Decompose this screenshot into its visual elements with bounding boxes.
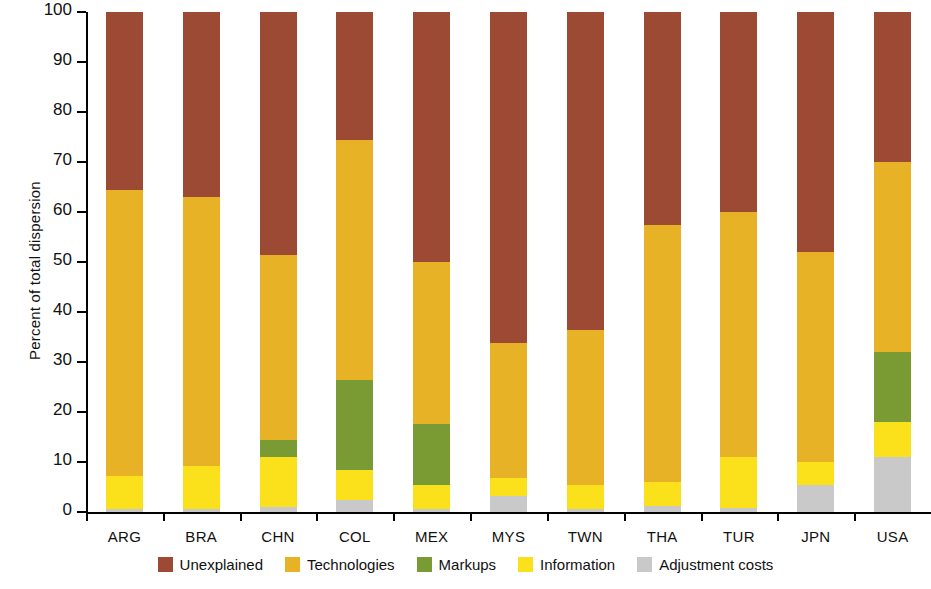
bar-segment-mex-adjustment-costs[interactable]	[413, 509, 450, 513]
x-tick	[547, 512, 549, 521]
bar-segment-mys-information[interactable]	[490, 478, 527, 496]
bar-segment-mys-unexplained[interactable]	[490, 12, 527, 343]
bar-mys[interactable]	[490, 12, 527, 512]
bar-segment-mex-unexplained[interactable]	[413, 12, 450, 262]
x-tick	[470, 512, 472, 521]
bar-segment-usa-unexplained[interactable]	[874, 12, 911, 162]
bar-twn[interactable]	[567, 12, 604, 512]
legend-item-markups[interactable]: Markups	[417, 556, 497, 573]
bar-segment-arg-technologies[interactable]	[106, 190, 143, 476]
plot-area: 0102030405060708090100 ARGBRACHNCOLMEXMY…	[86, 12, 931, 512]
legend-label: Adjustment costs	[659, 556, 773, 573]
x-tick-label-arg: ARG	[86, 528, 163, 545]
bar-segment-col-information[interactable]	[336, 470, 373, 500]
bar-segment-tur-adjustment-costs[interactable]	[720, 508, 757, 512]
bar-segment-usa-adjustment-costs[interactable]	[874, 457, 911, 512]
bar-segment-twn-adjustment-costs[interactable]	[567, 509, 604, 512]
y-tick-label: 80	[53, 100, 72, 120]
x-tick	[316, 512, 318, 521]
x-tick-label-usa: USA	[854, 528, 931, 545]
bar-segment-mys-adjustment-costs[interactable]	[490, 496, 527, 512]
legend-swatch-icon	[285, 557, 300, 572]
bar-chn[interactable]	[260, 12, 297, 512]
bar-segment-col-markups[interactable]	[336, 380, 373, 470]
bar-mex[interactable]	[413, 12, 450, 512]
chart-legend: UnexplainedTechnologiesMarkupsInformatio…	[0, 556, 931, 573]
x-tick	[163, 512, 165, 521]
bar-segment-bra-information[interactable]	[183, 466, 220, 509]
bar-jpn[interactable]	[797, 12, 834, 512]
legend-swatch-icon	[518, 557, 533, 572]
bar-segment-col-adjustment-costs[interactable]	[336, 500, 373, 513]
bar-segment-mex-markups[interactable]	[413, 424, 450, 485]
bar-segment-arg-unexplained[interactable]	[106, 12, 143, 190]
legend-swatch-icon	[417, 557, 432, 572]
bar-segment-tha-unexplained[interactable]	[644, 12, 681, 225]
bar-segment-twn-technologies[interactable]	[567, 330, 604, 485]
bar-segment-arg-information[interactable]	[106, 476, 143, 509]
y-tick-mark	[77, 411, 86, 413]
y-tick-label: 20	[53, 400, 72, 420]
bar-col[interactable]	[336, 12, 373, 512]
bar-segment-col-unexplained[interactable]	[336, 12, 373, 140]
bar-arg[interactable]	[106, 12, 143, 512]
legend-item-information[interactable]: Information	[518, 556, 615, 573]
bar-segment-tur-information[interactable]	[720, 457, 757, 509]
legend-item-technologies[interactable]: Technologies	[285, 556, 395, 573]
x-tick	[624, 512, 626, 521]
x-tick-label-twn: TWN	[547, 528, 624, 545]
bar-segment-tur-technologies[interactable]	[720, 212, 757, 457]
bar-segment-mys-technologies[interactable]	[490, 343, 527, 478]
bar-segment-jpn-technologies[interactable]	[797, 252, 834, 462]
y-tick-label: 40	[53, 300, 72, 320]
y-tick-label: 70	[53, 150, 72, 170]
bar-segment-twn-unexplained[interactable]	[567, 12, 604, 330]
bar-segment-tha-adjustment-costs[interactable]	[644, 506, 681, 512]
y-tick-mark	[77, 161, 86, 163]
bar-segment-chn-unexplained[interactable]	[260, 12, 297, 255]
bar-segment-bra-technologies[interactable]	[183, 197, 220, 466]
bar-segment-col-technologies[interactable]	[336, 140, 373, 380]
legend-label: Technologies	[307, 556, 395, 573]
bar-segment-tha-information[interactable]	[644, 482, 681, 506]
y-tick-label: 50	[53, 250, 72, 270]
bar-bra[interactable]	[183, 12, 220, 512]
bar-tha[interactable]	[644, 12, 681, 512]
bar-segment-tha-technologies[interactable]	[644, 225, 681, 483]
y-tick-mark	[77, 361, 86, 363]
bar-segment-mex-technologies[interactable]	[413, 262, 450, 424]
y-tick-mark	[77, 11, 86, 13]
y-tick-mark	[77, 261, 86, 263]
bar-segment-usa-technologies[interactable]	[874, 162, 911, 352]
x-tick-label-mys: MYS	[470, 528, 547, 545]
bar-segment-mex-information[interactable]	[413, 485, 450, 509]
bar-segment-jpn-information[interactable]	[797, 462, 834, 485]
y-tick-label: 100	[44, 0, 72, 20]
bar-segment-jpn-unexplained[interactable]	[797, 12, 834, 252]
bar-segment-usa-information[interactable]	[874, 422, 911, 457]
bar-segment-bra-unexplained[interactable]	[183, 12, 220, 197]
bar-usa[interactable]	[874, 12, 911, 512]
bar-segment-chn-information[interactable]	[260, 457, 297, 508]
bar-segment-twn-information[interactable]	[567, 485, 604, 510]
y-tick-mark	[77, 111, 86, 113]
bar-tur[interactable]	[720, 12, 757, 512]
bar-segment-arg-adjustment-costs[interactable]	[106, 509, 143, 513]
bar-segment-bra-adjustment-costs[interactable]	[183, 509, 220, 513]
legend-label: Information	[540, 556, 615, 573]
x-tick-label-jpn: JPN	[777, 528, 854, 545]
y-tick-mark	[77, 311, 86, 313]
y-tick-mark	[77, 211, 86, 213]
x-tick	[854, 512, 856, 521]
x-tick	[86, 512, 88, 521]
legend-label: Markups	[439, 556, 497, 573]
y-tick-mark	[77, 461, 86, 463]
bar-segment-jpn-adjustment-costs[interactable]	[797, 485, 834, 513]
bar-segment-chn-markups[interactable]	[260, 440, 297, 457]
bar-segment-chn-adjustment-costs[interactable]	[260, 507, 297, 512]
bar-segment-chn-technologies[interactable]	[260, 255, 297, 440]
legend-item-unexplained[interactable]: Unexplained	[158, 556, 263, 573]
bar-segment-usa-markups[interactable]	[874, 352, 911, 422]
legend-item-adjustment-costs[interactable]: Adjustment costs	[637, 556, 773, 573]
bar-segment-tur-unexplained[interactable]	[720, 12, 757, 212]
